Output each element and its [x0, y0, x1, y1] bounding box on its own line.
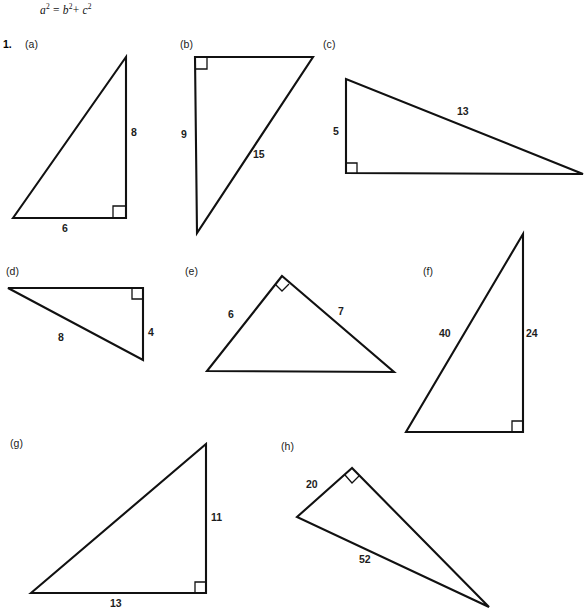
- side-label-a-8: 8: [131, 126, 137, 138]
- right-angle-marker-g-icon: [195, 582, 206, 593]
- part-label-d: (d): [6, 265, 19, 277]
- side-label-a-6: 6: [62, 222, 68, 234]
- side-label-e-7: 7: [338, 305, 344, 317]
- triangle-d-outline: [8, 288, 143, 360]
- side-label-d-4: 4: [148, 326, 154, 338]
- side-label-f-40: 40: [439, 327, 451, 339]
- side-label-e-6: 6: [228, 308, 234, 320]
- side-label-d-8: 8: [58, 331, 64, 343]
- figure-triangle-d: [0, 278, 170, 373]
- right-angle-marker-b-icon: [195, 57, 207, 69]
- triangle-f-outline: [406, 234, 523, 432]
- side-label-b-15: 15: [253, 148, 265, 160]
- side-label-h-52: 52: [359, 553, 371, 565]
- triangle-e-outline: [207, 276, 394, 372]
- triangle-b-outline: [195, 57, 313, 233]
- part-label-c: (c): [323, 38, 336, 50]
- triangle-a-outline: [13, 57, 126, 218]
- figure-triangle-e: [195, 265, 410, 385]
- triangle-g-outline: [31, 444, 206, 593]
- formula-a-exponent: 2: [46, 2, 50, 11]
- figure-triangle-a: [0, 45, 150, 235]
- part-label-h: (h): [281, 440, 294, 452]
- right-angle-marker-d-icon: [132, 288, 143, 299]
- side-label-c-13: 13: [457, 105, 469, 117]
- right-angle-marker-a-icon: [113, 206, 126, 218]
- formula-equals: =: [53, 4, 60, 16]
- side-label-f-24: 24: [526, 327, 538, 339]
- formula-plus: +: [73, 4, 80, 16]
- right-angle-marker-c-icon: [346, 163, 357, 173]
- triangle-c-outline: [346, 79, 583, 174]
- right-angle-marker-f-icon: [512, 421, 523, 432]
- right-angle-marker-e-icon: [275, 284, 289, 291]
- side-label-c-5: 5: [333, 125, 339, 137]
- formula-c-exponent: 2: [88, 2, 92, 11]
- figure-triangle-b: [180, 45, 330, 245]
- side-label-h-20: 20: [306, 478, 318, 490]
- side-label-g-13: 13: [110, 597, 122, 609]
- right-angle-marker-h-icon: [345, 475, 359, 483]
- side-label-g-11: 11: [211, 511, 222, 523]
- pythagoras-formula: a2 = b2+ c2: [40, 2, 92, 16]
- triangle-h-outline: [297, 468, 489, 607]
- side-label-b-9: 9: [181, 128, 187, 140]
- figure-triangle-g: [0, 435, 230, 610]
- worksheet-page: a2 = b2+ c2 1. (a) 8 6 (b) 9 15 (c) 5 13…: [0, 0, 588, 614]
- figure-triangle-c: [330, 60, 588, 190]
